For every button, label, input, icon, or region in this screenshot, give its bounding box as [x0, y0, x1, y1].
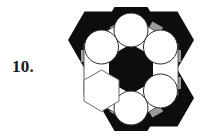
problem-number-label: 10. [12, 57, 58, 77]
circle-upper-left [85, 30, 119, 64]
circle-top [114, 13, 148, 47]
circle-upper-right [144, 30, 178, 64]
hexagonal-rosette-diagram [60, 0, 202, 139]
circle-lower-right [144, 74, 178, 108]
figure-container: 10. [0, 0, 202, 139]
